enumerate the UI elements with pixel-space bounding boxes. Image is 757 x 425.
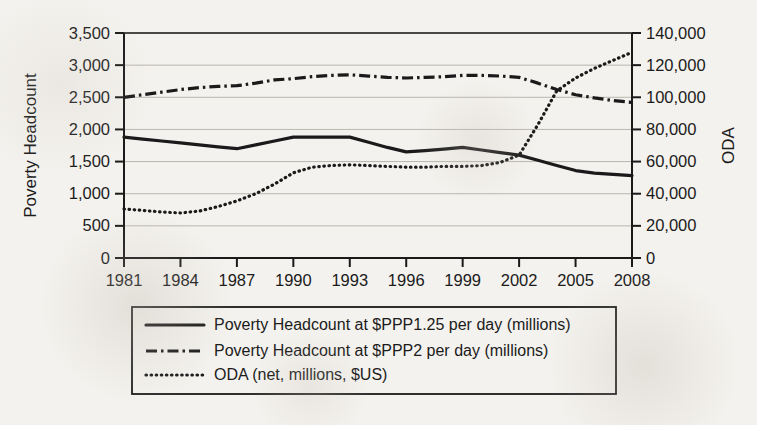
- left-axis: 05001,0001,5002,0002,5003,0003,500: [69, 24, 124, 267]
- x-axis-tick-label: 2002: [501, 271, 538, 289]
- left-axis-tick-label: 0: [101, 249, 110, 267]
- x-axis-tick-label: 1993: [331, 271, 368, 289]
- left-axis-tick-label: 500: [82, 216, 110, 234]
- right-axis-tick-label: 40,000: [646, 184, 696, 202]
- left-axis-tick-label: 1,000: [69, 184, 110, 202]
- right-axis-tick-label: 100,000: [646, 88, 706, 106]
- poverty-oda-line-chart: 05001,0001,5002,0002,5003,0003,500 020,0…: [0, 0, 757, 425]
- left-axis-tick-label: 3,500: [69, 24, 110, 42]
- right-axis-title: ODA: [719, 126, 738, 164]
- left-axis-tick-label: 2,500: [69, 88, 110, 106]
- gridlines: [124, 33, 632, 226]
- legend-layer: Poverty Headcount at $PPP1.25 per day (m…: [132, 307, 616, 394]
- series-layer: [124, 52, 632, 213]
- series-line-3: [124, 52, 632, 213]
- x-axis-tick-label: 1996: [388, 271, 425, 289]
- x-axis-tick-label: 1984: [162, 271, 199, 289]
- x-axis-tick-label: 1981: [106, 271, 143, 289]
- x-axis-tick-label: 2008: [614, 271, 651, 289]
- legend-label-1: Poverty Headcount at $PPP1.25 per day (m…: [214, 316, 571, 333]
- x-axis-tick-label: 1990: [275, 271, 312, 289]
- legend-label-3: ODA (net, millions, $US): [214, 366, 387, 383]
- left-axis-tick-label: 3,000: [69, 56, 110, 74]
- series-line-2: [124, 75, 632, 103]
- right-axis-tick-label: 60,000: [646, 152, 696, 170]
- right-axis-tick-label: 20,000: [646, 216, 696, 234]
- legend-label-2: Poverty Headcount at $PPP2 per day (mill…: [214, 342, 548, 359]
- x-axis-tick-label: 1987: [219, 271, 256, 289]
- left-axis-title: Poverty Headcount: [21, 73, 40, 218]
- x-axis-tick-label: 2005: [557, 271, 594, 289]
- right-axis: 020,00040,00060,00080,000100,000120,0001…: [632, 24, 706, 267]
- bottom-axis: 1981198419871990199319961999200220052008: [106, 258, 651, 289]
- left-axis-tick-label: 2,000: [69, 120, 110, 138]
- right-axis-tick-label: 140,000: [646, 24, 706, 42]
- right-axis-tick-label: 80,000: [646, 120, 696, 138]
- left-axis-tick-label: 1,500: [69, 152, 110, 170]
- x-axis-tick-label: 1999: [444, 271, 481, 289]
- right-axis-tick-label: 0: [646, 249, 655, 267]
- figure-container: 05001,0001,5002,0002,5003,0003,500 020,0…: [0, 0, 757, 425]
- right-axis-tick-label: 120,000: [646, 56, 706, 74]
- series-line-1: [124, 137, 632, 176]
